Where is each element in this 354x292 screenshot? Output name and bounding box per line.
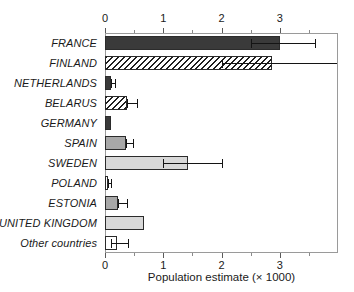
error-bar-line [118,203,127,204]
category-label: SWEDEN [48,157,97,169]
x-tick-minor [251,253,252,256]
error-bar-cap [133,139,134,148]
x-tick [163,28,164,33]
category-label: BELARUS [45,97,97,109]
x-axis-title: Population estimate (× 1000) [105,271,338,283]
category-label: UNITED KINGDOM [0,217,97,229]
x-tick-label: 3 [277,12,283,24]
bar-united-kingdom [105,216,144,230]
bar-belarus [105,96,127,110]
error-bar-cap [115,79,116,88]
error-bar-cap [127,199,128,208]
category-label: NETHERLANDS [14,77,97,89]
error-bar-cap [118,199,119,208]
x-tick [105,253,106,258]
error-bar-cap [108,179,109,188]
error-bar-cap [128,239,129,248]
error-bar-cap [126,139,127,148]
category-label: POLAND [51,177,97,189]
error-bar-line [111,243,128,244]
error-bar-cap [222,59,223,68]
x-tick [222,253,223,258]
category-label: ESTONIA [48,197,97,209]
x-tick-label: 1 [160,259,166,271]
error-bar-line [163,163,221,164]
bar-estonia [105,196,118,210]
bar-chart: 0123 0123 FRANCEFINLANDNETHERLANDSBELARU… [0,0,354,292]
category-label: Other countries [20,237,97,249]
error-bar-line [127,103,137,104]
error-bar-cap [251,39,252,48]
x-tick-label: 2 [218,259,224,271]
category-label: SPAIN [64,137,97,149]
x-tick [105,28,106,33]
x-tick-minor [192,30,193,33]
x-tick-minor [134,30,135,33]
error-bar-cap [137,99,138,108]
x-tick-minor [309,253,310,256]
x-tick-label: 0 [102,259,108,271]
category-label: GERMANY [41,117,97,129]
bar-germany [105,116,111,130]
x-tick-minor [192,253,193,256]
error-bar-cap [111,239,112,248]
category-label: FRANCE [51,37,97,49]
x-tick-label: 2 [218,12,224,24]
error-bar-cap [163,159,164,168]
x-tick-minor [134,253,135,256]
x-tick-minor [251,30,252,33]
x-tick-label: 3 [277,259,283,271]
error-bar-cap [127,99,128,108]
category-label-list: FRANCEFINLANDNETHERLANDSBELARUSGERMANYSP… [0,33,101,253]
error-bar-line [126,143,133,144]
error-bar-line [222,63,338,64]
x-tick [280,28,281,33]
error-bar-line [251,43,315,44]
error-bar-cap [222,159,223,168]
x-tick-label: 0 [102,12,108,24]
x-tick [163,253,164,258]
x-tick [280,253,281,258]
bar-spain [105,136,126,150]
error-bar-cap [315,39,316,48]
category-label: FINLAND [49,57,97,69]
x-tick-label: 1 [160,12,166,24]
x-tick [222,28,223,33]
error-bar-cap [111,179,112,188]
error-bar-cap [111,79,112,88]
x-tick-minor [309,30,310,33]
